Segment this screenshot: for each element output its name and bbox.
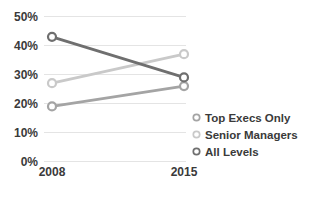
legend-label: Top Execs Only <box>205 112 291 124</box>
x-tick-label: 2008 <box>39 165 66 179</box>
legend-marker-icon <box>193 131 199 137</box>
series-line <box>52 37 184 78</box>
y-tick-label: 30% <box>14 68 38 82</box>
y-tick-label: 20% <box>14 97 38 111</box>
data-point-marker <box>180 82 188 90</box>
data-point-marker <box>48 102 56 110</box>
legend-label: All Levels <box>205 146 259 158</box>
y-tick-label: 0% <box>21 155 39 169</box>
legend-marker-icon <box>193 148 199 154</box>
legend-label: Senior Managers <box>205 129 298 141</box>
x-tick-label: 2015 <box>171 165 198 179</box>
chart-container: 0%10%20%30%40%50%20082015Top Execs OnlyS… <box>0 0 318 202</box>
legend-marker-icon <box>193 114 199 120</box>
data-point-marker <box>180 73 188 81</box>
data-point-marker <box>48 33 56 41</box>
data-point-marker <box>48 79 56 87</box>
line-chart: 0%10%20%30%40%50%20082015Top Execs OnlyS… <box>0 0 318 202</box>
y-tick-label: 40% <box>14 39 38 53</box>
y-tick-label: 10% <box>14 126 38 140</box>
y-tick-label: 50% <box>14 10 38 24</box>
data-point-marker <box>180 50 188 58</box>
